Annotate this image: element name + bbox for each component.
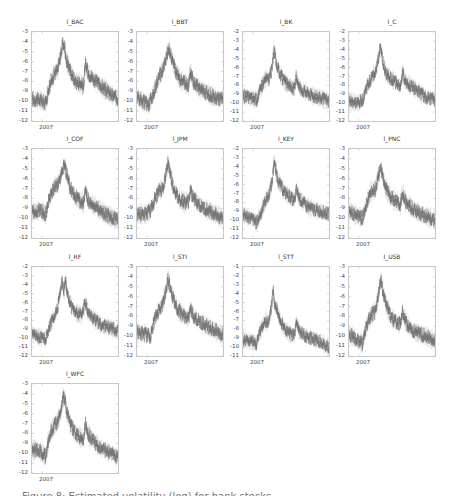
volatility-trace [137,149,223,238]
plot-area [136,31,224,122]
y-tick-label: -12 [336,352,345,358]
plot-area [348,31,436,122]
y-tick-label: -9 [23,87,28,93]
y-tick-label: -8 [234,325,239,331]
chart-panel-l-key: l_KEY -2-3-4-5-6-7-8-9-10-11-122007 [242,148,330,239]
y-tick-label: -7 [234,316,239,322]
y-tick-label: -11 [124,342,133,348]
y-tick-label: -12 [336,117,345,123]
chart-panel-l-bk: l_BK -2-3-4-5-6-7-8-9-10-11-122007 [242,31,330,122]
y-tick-label: -5 [23,400,28,406]
plot-area [242,266,330,357]
y-tick-label: -3 [340,145,345,151]
chart-panel-l-pnc: l_PNC -3-4-5-6-7-8-9-10-11-122007 [348,148,436,239]
chart-panel-l-wfc: l_WFC -3-4-5-6-7-8-9-10-11-122007 [31,383,119,474]
y-tick-label: -6 [234,308,239,314]
y-tick-label: -3 [128,28,133,34]
y-tick-label: -9 [23,439,28,445]
panel-title: l_RF [31,253,119,260]
y-tick-label: -10 [230,99,239,105]
y-tick-label: -4 [23,155,28,161]
y-tick-label: -12 [19,352,28,358]
y-tick-label: -12 [19,117,28,123]
plot-area [242,148,330,239]
y-tick-label: -11 [19,459,28,465]
y-tick-label: -4 [340,273,345,279]
y-tick-label: -2 [234,28,239,34]
y-tick-label: -10 [19,449,28,455]
chart-panel-l-cof: l_COF -3-4-5-6-7-8-9-10-11-122007 [31,148,119,239]
plot-area [31,266,119,357]
y-tick-label: -12 [336,234,345,240]
x-tick-label: 2007 [39,241,53,247]
y-tick-label: -7 [340,303,345,309]
y-tick-label: -7 [340,73,345,79]
y-tick-label: -7 [128,185,133,191]
y-tick-label: -10 [19,334,28,340]
x-tick-label: 2007 [39,124,53,130]
y-tick-label: -3 [340,263,345,269]
y-tick-label: -3 [234,37,239,43]
y-tick-label: -4 [128,155,133,161]
y-tick-label: -5 [128,283,133,289]
y-tick-label: -4 [234,163,239,169]
x-tick-label: 2007 [144,241,158,247]
y-tick-label: -6 [340,175,345,181]
chart-panel-l-rf: l_RF -2-3-4-5-6-7-8-9-10-11-122007 [31,266,119,357]
x-tick-label: 2007 [356,241,370,247]
volatility-trace [243,267,329,356]
y-tick-label: -10 [124,332,133,338]
y-tick-label: -11 [19,343,28,349]
panel-title: l_WFC [31,370,119,377]
x-tick-label: 2007 [250,241,264,247]
y-tick-label: -4 [234,46,239,52]
y-tick-label: -6 [23,58,28,64]
y-tick-label: -9 [23,325,28,331]
panel-title: l_KEY [242,135,330,142]
y-tick-label: -11 [230,108,239,114]
x-tick-label: 2007 [356,359,370,365]
y-tick-label: -11 [124,107,133,113]
y-tick-label: -12 [124,234,133,240]
chart-panel-l-jpm: l_JPM -3-4-5-6-7-8-9-10-11-122007 [136,148,224,239]
y-tick-label: -1 [234,263,239,269]
y-tick-label: -11 [19,107,28,113]
volatility-trace [32,32,118,121]
y-tick-label: -7 [23,420,28,426]
plot-area [31,31,119,122]
y-tick-label: -4 [340,155,345,161]
y-tick-label: -5 [128,165,133,171]
x-tick-label: 2007 [39,476,53,482]
y-tick-label: -9 [128,87,133,93]
volatility-trace [349,149,435,238]
y-tick-label: -7 [128,303,133,309]
x-tick-label: 2007 [356,124,370,130]
y-tick-label: -10 [124,214,133,220]
volatility-trace [137,267,223,356]
y-tick-label: -3 [340,37,345,43]
volatility-trace [137,32,223,121]
y-tick-label: -4 [128,38,133,44]
y-tick-label: -6 [23,410,28,416]
y-tick-label: -11 [336,342,345,348]
y-tick-label: -3 [23,28,28,34]
y-tick-label: -5 [340,55,345,61]
y-tick-label: -5 [23,48,28,54]
x-tick-label: 2007 [250,124,264,130]
y-tick-label: -10 [336,99,345,105]
cropped-header-text [0,0,454,4]
y-tick-label: -6 [128,58,133,64]
y-tick-label: -8 [340,81,345,87]
panel-title: l_BAC [31,18,119,25]
y-tick-label: -8 [128,194,133,200]
y-tick-label: -9 [340,204,345,210]
y-tick-label: -12 [19,469,28,475]
y-tick-label: -12 [124,352,133,358]
y-tick-label: -7 [23,308,28,314]
chart-panel-l-stt: l_STT -1-2-3-4-5-6-7-8-9-10-112007 [242,266,330,357]
y-tick-label: -8 [340,194,345,200]
x-tick-label: 2007 [39,359,53,365]
volatility-trace [32,384,118,473]
y-tick-label: -11 [336,108,345,114]
y-tick-label: -6 [128,293,133,299]
